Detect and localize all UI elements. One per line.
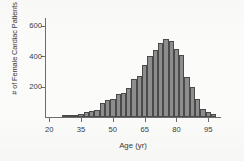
y-axis-title: # of Female Cardiac Patients — [10, 0, 19, 109]
x-tick-label-65: 65 — [140, 125, 148, 134]
y-tick-label: 200 — [29, 82, 42, 91]
x-tick-label-20: 20 — [45, 125, 53, 134]
plot-area: 200400600 203550658095 — [45, 18, 221, 117]
histogram-figure: # of Female Cardiac Patients 200400600 2… — [0, 0, 244, 161]
x-tick-mark-80 — [176, 117, 177, 122]
x-tick-mark-65 — [145, 117, 146, 122]
x-tick-mark-20 — [49, 117, 50, 122]
x-axis-line — [45, 117, 221, 118]
x-tick-label-50: 50 — [109, 125, 117, 134]
y-tick-label: 400 — [29, 52, 42, 61]
bar — [211, 114, 216, 117]
x-tick-label-95: 95 — [204, 125, 212, 134]
x-tick-mark-50 — [113, 117, 114, 122]
x-axis-title: Age (yr) — [45, 141, 221, 150]
x-tick-mark-95 — [208, 117, 209, 122]
x-tick-mark-35 — [81, 117, 82, 122]
x-tick-label-35: 35 — [77, 125, 85, 134]
x-tick-label-80: 80 — [172, 125, 180, 134]
bar-series — [45, 18, 221, 117]
y-tick-label: 600 — [29, 21, 42, 30]
